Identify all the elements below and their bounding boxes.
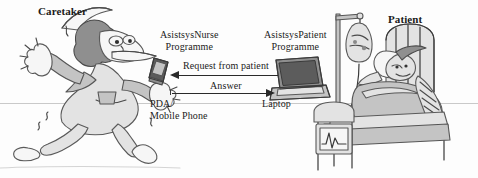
patient-programme-label: AsistsysPatient Programme <box>264 29 327 52</box>
answer-arrow-head-icon <box>266 89 275 97</box>
patient-programme-line1: AsistsysPatient <box>264 29 327 41</box>
answer-arrow-tail-tick <box>170 90 171 95</box>
pda-label-line1: PDA/ <box>150 98 208 110</box>
answer-arrow-label: Answer <box>210 80 242 92</box>
answer-arrow-line <box>172 93 268 94</box>
patient-label: Patient <box>388 13 422 26</box>
nurse-programme-line1: AsistsysNurse <box>160 29 219 41</box>
caretaker-label: Caretaker <box>38 5 87 18</box>
pda-device <box>149 58 168 85</box>
pda-label: PDA/ Mobile Phone <box>150 98 208 121</box>
diagram-canvas: Caretaker Patient AsistsysNurse Programm… <box>0 0 478 178</box>
nurse-programme-label: AsistsysNurse Programme <box>160 29 219 52</box>
pda-label-line2: Mobile Phone <box>150 110 208 122</box>
bedside-monitor <box>316 124 352 154</box>
patient-programme-line2: Programme <box>264 41 327 53</box>
request-arrow-label: Request from patient <box>183 60 269 72</box>
laptop-label: Laptop <box>262 98 291 110</box>
nurse-programme-line2: Programme <box>160 41 219 53</box>
laptop-device <box>270 57 330 100</box>
request-arrow-head-icon <box>170 71 179 79</box>
request-arrow-line <box>178 75 278 76</box>
